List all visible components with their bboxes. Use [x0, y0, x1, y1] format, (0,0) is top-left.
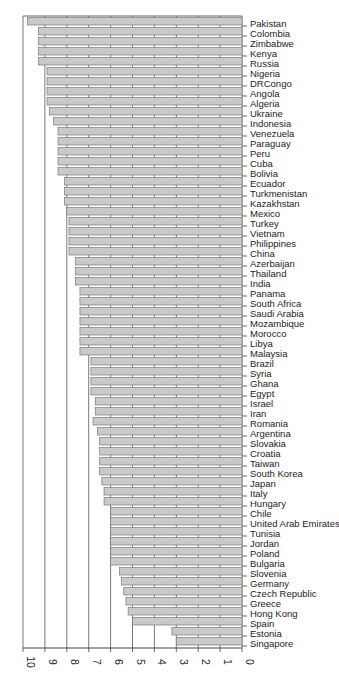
axis-tick-label: 10: [25, 656, 37, 668]
axis-tick-label: 2: [200, 659, 212, 665]
bar-jordan: [111, 538, 242, 546]
bar-singapore: [176, 638, 242, 646]
bar-indonesia: [54, 118, 242, 126]
bar-angola: [47, 88, 242, 96]
bar-estonia: [172, 628, 242, 636]
bar-south-africa: [80, 298, 242, 306]
bar-pakistan: [27, 18, 242, 26]
bar-syria: [91, 368, 242, 376]
bar-hungary: [104, 498, 242, 506]
bar-morocco: [80, 328, 242, 336]
bar-ecuador: [65, 178, 242, 186]
bar-united-arab-emirates: [111, 518, 242, 526]
bar-taiwan: [100, 458, 242, 466]
axis-tick-label: 0: [244, 659, 256, 665]
bar-romania: [93, 418, 242, 426]
bar-malaysia: [80, 348, 242, 356]
bar-egypt: [91, 388, 242, 396]
bar-tunisia: [111, 528, 242, 536]
axis-tick-label: 1: [222, 659, 234, 665]
bar-germany: [122, 578, 242, 586]
bar-kazakhstan: [65, 198, 242, 206]
bar-south-korea: [100, 468, 242, 476]
bar-saudi-arabia: [80, 308, 242, 316]
bar-brazil: [91, 358, 242, 366]
bar-mexico: [67, 208, 242, 216]
bar-japan: [102, 478, 242, 486]
bar-italy: [104, 488, 242, 496]
category-label: Singapore: [250, 638, 293, 649]
axis-tick-label: 9: [47, 659, 59, 665]
bar-kenya: [38, 48, 242, 56]
bar-slovenia: [119, 568, 242, 576]
bar-turkmenistan: [65, 188, 242, 196]
bar-azerbaijan: [76, 258, 242, 266]
bar-bulgaria: [111, 558, 242, 566]
bar-croatia: [100, 448, 242, 456]
bar-bolivia: [58, 168, 242, 176]
bar-iran: [95, 408, 242, 416]
bar-cuba: [58, 158, 242, 166]
bar-vietnam: [69, 228, 242, 236]
axis-tick-label: 4: [156, 659, 168, 665]
bar-chile: [111, 508, 242, 516]
bar-drcongo: [47, 78, 242, 86]
bar-spain: [133, 618, 243, 626]
bar-ghana: [91, 378, 242, 386]
bar-czech-republic: [124, 588, 242, 596]
bar-argentina: [97, 428, 242, 436]
bar-russia: [38, 58, 242, 66]
bar-venezuela: [58, 128, 242, 136]
bar-peru: [58, 148, 242, 156]
axis-tick-label: 7: [91, 659, 103, 665]
bar-mozambique: [80, 318, 242, 326]
bar-colombia: [38, 28, 242, 36]
bar-ukraine: [49, 108, 242, 116]
bar-hong-kong: [128, 608, 242, 616]
bar-turkey: [69, 218, 242, 226]
bar-slovakia: [100, 438, 242, 446]
bar-panama: [80, 288, 242, 296]
bar-thailand: [76, 268, 242, 276]
bar-india: [76, 278, 242, 286]
bar-poland: [111, 548, 242, 556]
bars: [27, 18, 242, 646]
bar-israel: [95, 398, 242, 406]
bar-libya: [80, 338, 242, 346]
axis-tick-label: 8: [69, 659, 81, 665]
value-axis: 109876543210: [23, 648, 256, 668]
axis-tick-label: 5: [135, 659, 147, 665]
bar-china: [69, 248, 242, 256]
category-labels: PakistanColombiaZimbabweKenyaRussiaNiger…: [242, 18, 339, 649]
bar-algeria: [47, 98, 242, 106]
bar-philippines: [69, 238, 242, 246]
bar-chart: PakistanColombiaZimbabweKenyaRussiaNiger…: [0, 0, 339, 683]
axis-tick-label: 3: [178, 659, 190, 665]
axis-tick-label: 6: [113, 659, 125, 665]
bar-paraguay: [58, 138, 242, 146]
bar-greece: [126, 598, 242, 606]
bar-zimbabwe: [38, 38, 242, 46]
bar-nigeria: [47, 68, 242, 76]
